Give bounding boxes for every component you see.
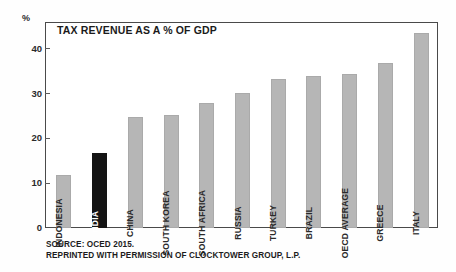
bar-category-label: INDIA (91, 211, 100, 235)
bar-indonesia: INDONESIA (56, 175, 71, 228)
bar-south-africa: SOUTH AFRICA (199, 103, 214, 228)
y-axis-tick-label: 0 (16, 223, 42, 233)
bar-russia: RUSSIA (235, 93, 250, 228)
y-axis-tick-label: 10 (16, 178, 42, 188)
bar-category-label: BRAZIL (305, 207, 314, 239)
y-axis-tick-label: 40 (16, 44, 42, 54)
source-note: SOURCE: OCED 2015. REPRINTED WITH PERMIS… (46, 240, 300, 261)
bar-oecd-average: OECD AVERAGE (342, 74, 357, 229)
bar-brazil: BRAZIL (306, 76, 321, 228)
bar-series: INDONESIAINDIACHINASOUTH KOREASOUTH AFRI… (45, 22, 438, 228)
y-axis-tick-label: 30 (16, 89, 42, 99)
chart-figure: % TAX REVENUE AS A % OF GDP 010203040 IN… (0, 0, 456, 272)
bar-greece: GREECE (378, 63, 393, 228)
bar-category-label: OECD AVERAGE (341, 188, 350, 258)
bar-category-label: CHINA (126, 209, 135, 237)
bar-category-label: RUSSIA (234, 206, 243, 239)
y-axis-unit-label: % (22, 13, 30, 23)
bar-category-label: GREECE (376, 204, 385, 241)
bar-south-korea: SOUTH KOREA (164, 115, 179, 228)
bar-category-label: TURKEY (269, 205, 278, 241)
bar-china: CHINA (128, 117, 143, 228)
bar-turkey: TURKEY (271, 79, 286, 228)
bar-category-label: ITALY (412, 211, 421, 235)
y-axis-tick-label: 20 (16, 133, 42, 143)
bar-india: INDIA (92, 153, 107, 228)
source-line-2: REPRINTED WITH PERMISSION OF CLOCKTOWER … (46, 251, 300, 262)
bar-italy: ITALY (414, 33, 429, 228)
source-line-1: SOURCE: OCED 2015. (46, 240, 300, 251)
